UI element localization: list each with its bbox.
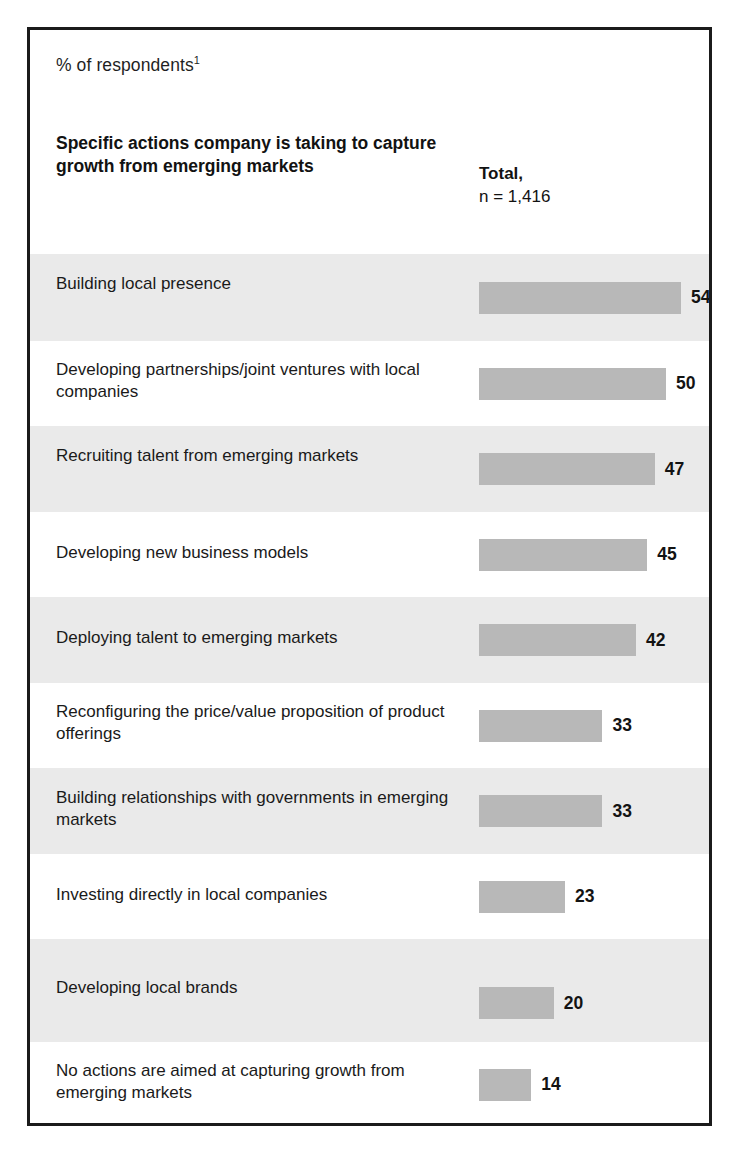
row-label: No actions are aimed at capturing growth… (56, 1060, 456, 1105)
row-label: Reconfiguring the price/value propositio… (56, 701, 456, 746)
column-header-total: Total, n = 1,416 (479, 162, 550, 209)
row-plot: 45 (479, 539, 709, 571)
row-label: Investing directly in local companies (56, 884, 456, 906)
row-plot: 47 (479, 453, 709, 485)
bar-value-label: 54 (691, 287, 710, 308)
row-label: Developing partnerships/joint ventures w… (56, 359, 456, 404)
row-label: Deploying talent to emerging markets (56, 627, 456, 649)
bar-value-label: 23 (575, 886, 594, 907)
row-plot: 42 (479, 624, 709, 656)
bar (479, 453, 655, 485)
chart-row: Developing new business models45 (30, 512, 709, 597)
bar (479, 795, 602, 827)
chart-row: Reconfiguring the price/value propositio… (30, 683, 709, 768)
chart-row: Building relationships with governments … (30, 768, 709, 854)
exhibit-inner: % of respondents1 Specific actions compa… (30, 30, 709, 1123)
bar (479, 1069, 531, 1101)
row-label: Building local presence (56, 273, 456, 295)
row-label: Developing local brands (56, 977, 456, 999)
row-plot: 14 (479, 1069, 709, 1101)
row-plot: 50 (479, 368, 709, 400)
bar (479, 710, 602, 742)
chart-row: Developing partnerships/joint ventures w… (30, 341, 709, 426)
exhibit-frame: % of respondents1 Specific actions compa… (27, 27, 712, 1126)
row-label: Building relationships with governments … (56, 787, 456, 832)
chart-row: Deploying talent to emerging markets42 (30, 597, 709, 683)
chart-row: Building local presence54 (30, 254, 709, 341)
chart-row: Investing directly in local companies23 (30, 854, 709, 939)
column-header-sample-size: n = 1,416 (479, 185, 550, 208)
bar (479, 881, 565, 913)
bar-value-label: 45 (657, 544, 676, 565)
bar-value-label: 14 (541, 1074, 560, 1095)
bar-value-label: 20 (564, 993, 583, 1014)
bar (479, 282, 681, 314)
row-plot: 54 (479, 282, 709, 314)
bar-value-label: 33 (612, 715, 631, 736)
row-label: Recruiting talent from emerging markets (56, 445, 456, 467)
bar-value-label: 42 (646, 630, 665, 651)
bar (479, 987, 554, 1019)
bar (479, 368, 666, 400)
row-plot: 23 (479, 881, 709, 913)
bar (479, 539, 647, 571)
row-plot: 33 (479, 710, 709, 742)
column-header-total-label: Total, (479, 162, 550, 185)
page-title: Specific actions company is taking to ca… (56, 132, 456, 179)
bar-value-label: 47 (665, 459, 684, 480)
row-label: Developing new business models (56, 542, 456, 564)
bar (479, 624, 636, 656)
footnote-marker: 1 (194, 54, 200, 66)
row-plot: 20 (479, 987, 709, 1019)
chart-row: Developing local brands20 (30, 939, 709, 1042)
chart-rows: Building local presence54Developing part… (30, 254, 709, 1123)
chart-row: No actions are aimed at capturing growth… (30, 1042, 709, 1126)
bar-value-label: 50 (676, 373, 695, 394)
units-label-text: % of respondents (56, 55, 194, 75)
column-headers: Specific actions company is taking to ca… (30, 132, 709, 224)
row-plot: 33 (479, 795, 709, 827)
bar-value-label: 33 (612, 801, 631, 822)
units-label: % of respondents1 (56, 55, 200, 76)
chart-row: Recruiting talent from emerging markets4… (30, 426, 709, 512)
